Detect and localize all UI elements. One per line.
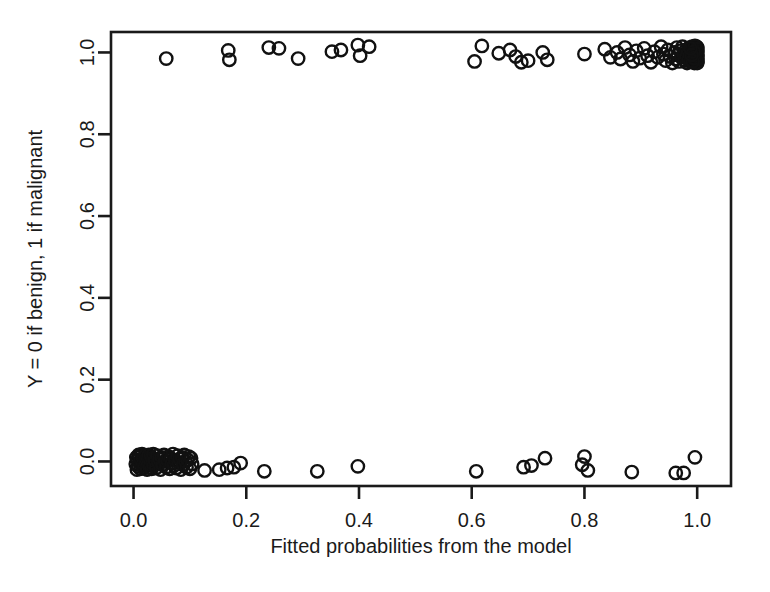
x-tick-label: 0.0	[120, 509, 148, 531]
data-point	[352, 460, 364, 472]
data-point	[525, 459, 537, 471]
x-axis-title: Fitted probabilities from the model	[270, 535, 571, 557]
data-series-malignant	[160, 39, 703, 69]
data-point	[578, 450, 590, 462]
y-axis-ticks	[98, 52, 111, 461]
data-point	[689, 451, 701, 463]
x-tick-label: 0.2	[232, 509, 260, 531]
x-axis-tick-labels: 0.00.20.40.60.81.0	[120, 509, 711, 531]
y-tick-label: 0.8	[76, 120, 98, 148]
x-tick-label: 0.6	[458, 509, 486, 531]
y-axis-tick-labels: 0.00.20.40.60.81.0	[76, 39, 98, 476]
data-point	[198, 464, 210, 476]
plot-canvas: 0.00.20.40.60.81.0 0.00.20.40.60.81.0 Fi…	[0, 0, 770, 592]
scatter-plot-figure: 0.00.20.40.60.81.0 0.00.20.40.60.81.0 Fi…	[0, 0, 770, 592]
plot-frame	[111, 32, 731, 486]
y-tick-label: 1.0	[76, 39, 98, 67]
x-tick-label: 1.0	[683, 509, 711, 531]
data-point	[292, 52, 304, 64]
data-point	[468, 55, 480, 67]
data-point	[470, 465, 482, 477]
data-point	[578, 48, 590, 60]
data-series-benign	[130, 448, 702, 479]
y-axis-title: Y = 0 if benign, 1 if malignant	[24, 129, 46, 388]
y-tick-label: 0.4	[76, 284, 98, 312]
y-tick-label: 0.2	[76, 366, 98, 394]
data-point	[311, 465, 323, 477]
data-point	[258, 465, 270, 477]
x-tick-label: 0.4	[345, 509, 373, 531]
x-axis-ticks	[134, 486, 698, 499]
x-tick-label: 0.8	[571, 509, 599, 531]
data-point	[539, 452, 551, 464]
y-tick-label: 0.6	[76, 202, 98, 230]
data-point	[677, 467, 689, 479]
data-point	[335, 44, 347, 56]
data-point	[476, 40, 488, 52]
data-point	[626, 466, 638, 478]
y-tick-label: 0.0	[76, 448, 98, 476]
data-point	[160, 52, 172, 64]
